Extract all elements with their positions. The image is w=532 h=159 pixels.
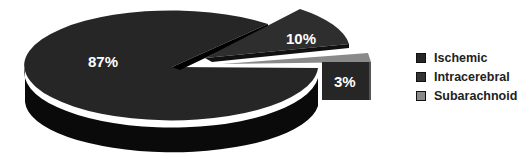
legend-swatch — [416, 91, 426, 101]
label-subarachnoid: 3% — [334, 73, 356, 90]
label-ischemic: 87% — [88, 53, 118, 70]
legend-label: Intracerebral — [434, 70, 510, 84]
legend-swatch — [416, 72, 426, 82]
slice-subarachnoid-front-edge — [369, 62, 371, 100]
legend: Ischemic Intracerebral Subarachnoid — [416, 48, 517, 105]
legend-label: Subarachnoid — [434, 89, 517, 103]
label-intracerebral: 10% — [286, 30, 316, 47]
legend-item-subarachnoid: Subarachnoid — [416, 86, 517, 105]
pie-chart: 87% 10% 3% — [0, 0, 400, 159]
legend-label: Ischemic — [434, 51, 488, 65]
legend-item-ischemic: Ischemic — [416, 48, 517, 67]
legend-swatch — [416, 53, 426, 63]
legend-item-intracerebral: Intracerebral — [416, 67, 517, 86]
